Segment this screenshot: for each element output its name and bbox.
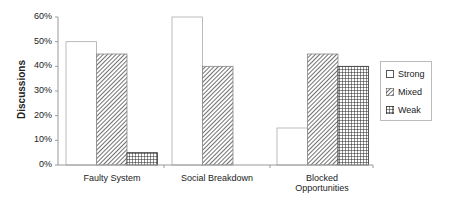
- legend-label-weak: Weak: [398, 105, 421, 115]
- x-label-blocked: Blocked: [272, 173, 372, 183]
- y-tick-label: 0%: [16, 159, 52, 169]
- x-label-faulty-system: Faulty System: [62, 173, 162, 183]
- y-tick-label: 10%: [16, 134, 52, 144]
- bars-group: [66, 17, 369, 165]
- legend-item-strong: Strong: [386, 69, 425, 79]
- x-label-social-breakdown: Social Breakdown: [167, 173, 267, 183]
- bar-strong-1: [172, 17, 203, 165]
- legend-item-weak: Weak: [386, 105, 421, 115]
- legend: Strong Mixed Weak: [380, 61, 432, 121]
- mixed-swatch-icon: [386, 88, 394, 96]
- legend-item-mixed: Mixed: [386, 87, 422, 97]
- legend-label-mixed: Mixed: [398, 87, 422, 97]
- bar-mixed-1: [203, 66, 234, 165]
- y-tick-label: 50%: [16, 36, 52, 46]
- bar-weak-2: [338, 66, 369, 165]
- bar-mixed-0: [97, 54, 128, 165]
- bar-strong-0: [66, 42, 97, 165]
- bar-strong-2: [277, 128, 308, 165]
- bar-mixed-2: [308, 54, 339, 165]
- strong-swatch-icon: [386, 70, 394, 78]
- x-label-opportunities: Opportunities: [272, 183, 372, 193]
- y-tick-label: 60%: [16, 11, 52, 21]
- legend-label-strong: Strong: [398, 69, 425, 79]
- y-axis-label: Discussions: [16, 55, 27, 125]
- weak-swatch-icon: [386, 106, 394, 114]
- bar-weak-0: [127, 153, 158, 165]
